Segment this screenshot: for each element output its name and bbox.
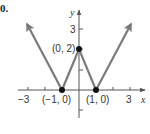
x-tick-label-3: 3 (126, 94, 132, 105)
point-neg1-0 (59, 87, 65, 93)
point-label-1-0: (1, 0) (86, 94, 109, 105)
point-1-0 (93, 87, 99, 93)
x-tick-label-neg3: −3 (18, 94, 30, 105)
y-tick-label-3: 3 (70, 24, 76, 35)
graph-plot: y x 3 −3 3 (0, 2) (−1, 0) (1, 0) (0, 0, 150, 134)
left-arm-arrow (27, 24, 62, 90)
x-axis-label: x (140, 94, 146, 105)
right-arm-arrow (96, 24, 131, 90)
y-ticks (79, 29, 83, 110)
point-0-2 (76, 46, 82, 52)
y-axis-label: y (69, 7, 75, 18)
point-label-neg1-0: (−1, 0) (42, 94, 71, 105)
point-label-0-2: (0, 2) (52, 43, 75, 54)
